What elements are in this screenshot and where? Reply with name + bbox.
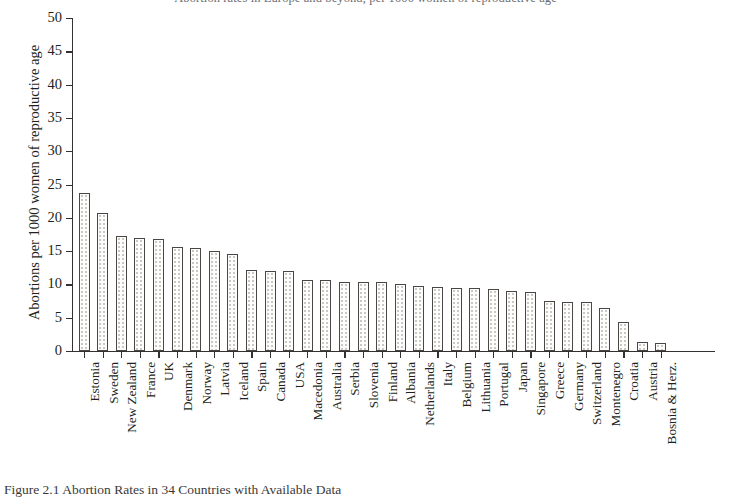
- x-tick: [214, 352, 215, 358]
- x-axis-label-text: Macedonia: [312, 362, 324, 421]
- x-axis-label: Spain: [256, 332, 268, 362]
- x-tick: [382, 352, 383, 358]
- x-axis-label-text: UK: [163, 362, 175, 381]
- x-tick: [251, 352, 252, 358]
- y-tick-30: 30: [66, 151, 72, 152]
- x-axis-label: Japan: [517, 332, 529, 362]
- y-tick-5: 5: [66, 318, 72, 319]
- y-tick-label-45: 45: [48, 41, 63, 60]
- x-axis-label-text: USA: [294, 362, 306, 388]
- x-tick: [177, 352, 178, 358]
- x-axis-label: UK: [163, 343, 175, 362]
- x-axis-label-text: Austria: [647, 362, 659, 401]
- x-tick: [326, 352, 327, 358]
- x-axis-label-text: Norway: [201, 362, 213, 404]
- x-axis-label-text: New Zealand: [126, 362, 138, 433]
- x-axis-label: Latvia: [219, 328, 231, 362]
- x-axis-label-text: Italy: [442, 362, 454, 386]
- x-axis-label-text: Iceland: [238, 362, 250, 401]
- y-axis-title: Abortions per 1000 women of reproductive…: [26, 13, 43, 353]
- x-axis-label-text: Belgium: [461, 362, 473, 407]
- x-axis-label: Serbia: [349, 328, 361, 362]
- x-axis-label: Montenegro: [610, 298, 622, 362]
- x-tick: [419, 352, 420, 358]
- x-axis-label-text: Greece: [554, 362, 566, 399]
- x-axis-label: Bosnia & Herz.: [666, 280, 678, 362]
- x-tick: [196, 352, 197, 358]
- y-tick-label-10: 10: [48, 274, 63, 293]
- x-axis-label-text: Finland: [387, 362, 399, 402]
- y-tick-45: 45: [66, 51, 72, 52]
- x-axis-label: Norway: [201, 320, 213, 362]
- x-axis-label: Greece: [554, 325, 566, 362]
- x-tick: [289, 352, 290, 358]
- x-tick: [233, 352, 234, 358]
- x-tick: [512, 352, 513, 358]
- x-tick: [530, 352, 531, 358]
- x-tick: [475, 352, 476, 358]
- x-axis-label: Finland: [387, 322, 399, 362]
- x-axis-label-text: Bosnia & Herz.: [666, 362, 678, 444]
- x-axis-label-text: Spain: [256, 362, 268, 392]
- x-tick: [344, 352, 345, 358]
- y-tick-10: 10: [66, 284, 72, 285]
- y-tick-15: 15: [66, 251, 72, 252]
- x-axis-label-text: Montenegro: [610, 362, 622, 426]
- x-axis-label-text: Albania: [405, 362, 417, 404]
- x-axis-label: Germany: [573, 313, 585, 362]
- y-tick-label-20: 20: [48, 208, 63, 227]
- x-axis-label-text: Croatia: [628, 362, 640, 401]
- x-tick: [493, 352, 494, 358]
- x-tick: [121, 352, 122, 358]
- x-axis-label: Portugal: [498, 317, 510, 362]
- x-tick: [363, 352, 364, 358]
- y-tick-label-50: 50: [48, 8, 63, 27]
- x-tick: [158, 352, 159, 358]
- y-tick-label-25: 25: [48, 175, 63, 194]
- x-axis-label: Australia: [331, 314, 343, 362]
- y-tick-label-40: 40: [48, 75, 63, 94]
- y-tick-20: 20: [66, 218, 72, 219]
- x-tick: [270, 352, 271, 358]
- x-axis-label: Estonia: [89, 322, 101, 362]
- chart-title: Abortion rates in Europe and beyond, per…: [0, 0, 731, 6]
- x-axis-label: USA: [294, 336, 306, 362]
- x-axis-label: Albania: [405, 320, 417, 362]
- x-tick: [605, 352, 606, 358]
- figure-caption: Figure 2.1 Abortion Rates in 34 Countrie…: [4, 482, 564, 498]
- y-tick-50: 50: [66, 18, 72, 19]
- x-axis-label-text: France: [145, 362, 157, 398]
- x-axis-label: Canada: [275, 322, 287, 362]
- x-axis-label-text: Slovenia: [368, 362, 380, 408]
- x-axis-label: Lithuania: [480, 311, 492, 362]
- x-tick: [549, 352, 550, 358]
- x-axis-label: Italy: [442, 338, 454, 362]
- x-axis-label-text: Canada: [275, 362, 287, 402]
- x-axis-label-text: Estonia: [89, 362, 101, 402]
- x-tick: [642, 352, 643, 358]
- x-axis-label-text: Singapore: [535, 362, 547, 415]
- y-tick-label-15: 15: [48, 241, 63, 260]
- x-tick: [307, 352, 308, 358]
- x-axis-label-text: Serbia: [349, 362, 361, 396]
- y-axis-line: [72, 18, 73, 351]
- x-axis-label-text: Portugal: [498, 362, 510, 407]
- x-axis-label: Austria: [647, 323, 659, 362]
- x-axis-label: Slovenia: [368, 316, 380, 362]
- x-tick: [568, 352, 569, 358]
- x-axis-label-text: Denmark: [182, 362, 194, 411]
- y-tick-label-35: 35: [48, 108, 63, 127]
- x-tick: [437, 352, 438, 358]
- x-axis-label: France: [145, 326, 157, 362]
- x-axis-label-text: Sweden: [108, 362, 120, 404]
- x-axis-label: Denmark: [182, 313, 194, 362]
- x-axis-label-text: Japan: [517, 362, 529, 392]
- x-axis-label: Croatia: [628, 323, 640, 362]
- bar: [172, 247, 183, 351]
- x-axis-label-text: Latvia: [219, 362, 231, 396]
- x-tick: [84, 352, 85, 358]
- y-tick-25: 25: [66, 185, 72, 186]
- x-axis-label-text: Netherlands: [424, 362, 436, 426]
- y-tick-label-5: 5: [55, 308, 62, 327]
- x-axis-label: New Zealand: [126, 291, 138, 362]
